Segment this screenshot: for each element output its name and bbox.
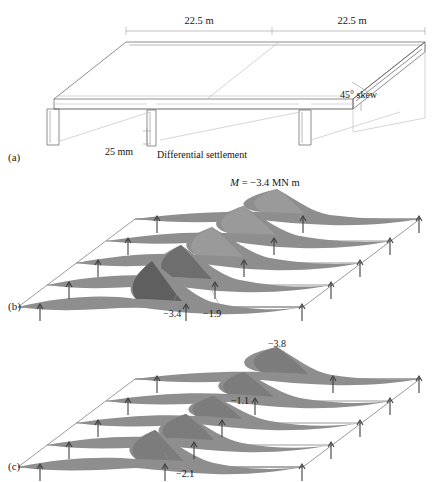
panel-c-value-label-mid: −1.1 [231,395,249,406]
support-arrow [416,376,422,393]
right-abutment-wall [353,42,425,132]
settlement-value-label: 25 mm [105,146,133,157]
support-arrow [66,282,72,299]
support-arrow [300,216,306,233]
dimension-right-span [279,27,425,35]
right-pier [299,110,311,145]
support-arrow [416,216,422,233]
panel-b-label: (b) [8,300,21,313]
panel-c-moment-beam-2 [47,414,332,452]
deck-hidden-edges [207,42,425,99]
support-arrow [328,282,334,299]
moment-value: −3.4 MN m [250,177,299,188]
support-arrow [357,420,363,437]
panel-a-label: (a) [8,151,21,164]
support-arrow [66,442,72,459]
support-arrow [154,376,160,393]
panel-b-moment-beam-5 [135,189,420,225]
support-arrow [328,442,334,459]
support-arrow [95,260,101,277]
dimension-left-label: 22.5 m [184,15,213,26]
settlement-caption-label: Differential settlement [157,149,247,160]
moment-equals: = [239,177,250,188]
panel-c-label: (c) [8,460,21,473]
dimension-right-label: 22.5 m [337,15,366,26]
panel-b-moment-beam-3 [76,227,361,270]
support-arrow [162,464,168,481]
panel-b-moment-title: M = −3.4 MN m [229,177,299,188]
support-arrow [219,420,225,437]
left-pier [47,109,59,145]
panel-c: −3.8 [8,338,422,481]
support-arrow [154,216,160,233]
support-arrow [125,398,131,415]
support-arrow [387,238,393,255]
support-arrow [37,464,43,481]
deck-soffit-lines [54,104,400,141]
support-arrow [299,464,305,481]
support-arrow [387,398,393,415]
support-arrow [357,260,363,277]
dimension-left-span [126,27,279,35]
panel-b-moment-beam-4 [106,206,391,248]
support-arrow [252,398,258,415]
panel-b: M = −3.4 MN m [8,177,422,321]
support-arrow [299,304,305,321]
panel-a: 22.5 m 22.5 m [8,15,425,164]
panel-c-moment-beam-5 [135,347,420,385]
panel-b-value-label-2: −1.9 [203,308,221,319]
figure-container: 22.5 m 22.5 m [0,0,438,482]
support-arrow [125,238,131,255]
support-arrow [95,420,101,437]
skew-angle-label: 45° skew [340,89,378,100]
panel-b-value-label-1: −3.4 [163,308,181,319]
support-arrow [37,304,43,321]
panel-c-value-label-lower: −2.1 [176,468,194,479]
centre-pier [147,110,156,146]
